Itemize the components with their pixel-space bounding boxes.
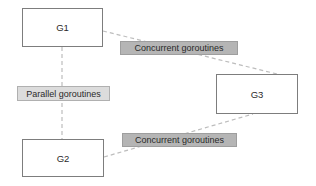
edge-label-concurrent-goroutines-top-text: Concurrent goroutines <box>134 43 223 53</box>
edge-label-concurrent-goroutines-bottom-text: Concurrent goroutines <box>135 135 224 145</box>
node-g2: G2 <box>22 139 104 177</box>
node-g1: G1 <box>22 8 103 47</box>
edge-label-parallel-goroutines-text: Parallel goroutines <box>26 89 101 99</box>
node-g3: G3 <box>216 74 298 114</box>
node-g2-label: G2 <box>57 153 70 164</box>
edge-label-concurrent-goroutines-top: Concurrent goroutines <box>120 41 238 55</box>
edge-label-parallel-goroutines: Parallel goroutines <box>17 86 110 101</box>
node-g1-label: G1 <box>56 22 69 33</box>
node-g3-label: G3 <box>251 89 264 100</box>
goroutines-diagram: G1 G2 G3 Concurrent goroutines Parallel … <box>0 0 316 186</box>
edge-label-concurrent-goroutines-bottom: Concurrent goroutines <box>122 133 237 147</box>
